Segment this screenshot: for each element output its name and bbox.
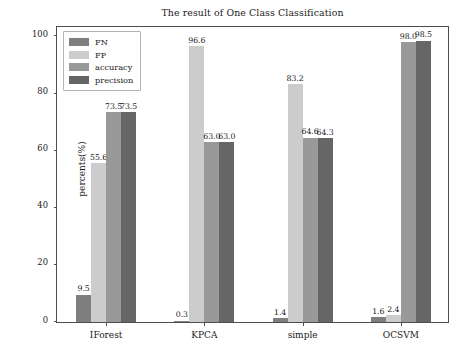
legend-swatch-icon [69,38,89,46]
y-tick-mark [54,93,58,94]
y-tick-label: 60 [37,143,48,153]
legend-item-label: precision [95,75,133,85]
y-tick-label: 0 [43,315,48,325]
legend-item-fn[interactable]: FN [69,36,133,49]
bar-fn-kpca: 0.3 [174,321,189,322]
chart-legend: FNFPaccuracyprecision [63,31,141,91]
y-tick: 80 [1,93,57,94]
x-tick-mark [204,322,205,326]
x-tick-mark [106,322,107,326]
bar-precision-kpca: 63.0 [219,142,234,322]
bar-precision-simple: 64.3 [318,138,333,322]
y-tick-label: 100 [32,29,48,39]
y-axis-label: percents(%) [77,109,87,229]
legend-item-precision[interactable]: precision [69,74,133,87]
bar-precision-iforest: 73.5 [121,112,136,322]
y-tick-mark [54,207,58,208]
bar-fp-iforest: 55.6 [91,163,106,322]
y-tick: 20 [1,264,57,265]
x-tick-label: OCSVM [351,330,451,340]
y-tick-mark [54,150,58,151]
y-tick-mark [54,264,58,265]
legend-item-accuracy[interactable]: accuracy [69,61,133,74]
bar-precision-ocsvm: 98.5 [416,41,431,322]
bar-value-label: 98.5 [415,30,432,39]
chart-title: The result of One Class Classification [56,7,449,18]
bar-value-label: 55.6 [90,153,107,162]
legend-item-label: FP [95,50,106,60]
bar-value-label: 0.3 [176,310,188,319]
bar-value-label: 63.0 [218,132,235,141]
legend-item-label: FN [95,37,108,47]
y-tick-mark [54,35,58,36]
bar-value-label: 96.6 [188,36,205,45]
bar-fp-kpca: 96.6 [189,46,204,322]
bar-value-label: 2.4 [387,305,399,314]
y-tick-label: 40 [37,200,48,210]
bar-fn-simple: 1.4 [273,318,288,322]
legend-item-fp[interactable]: FP [69,49,133,62]
legend-swatch-icon [69,51,89,59]
y-tick: 0 [1,321,57,322]
bar-value-label: 73.5 [120,102,137,111]
x-tick-mark [401,322,402,326]
x-tick-mark [303,322,304,326]
bar-fp-simple: 83.2 [288,84,303,322]
y-tick-mark [54,321,58,322]
x-tick-label: IForest [56,330,156,340]
bar-value-label: 64.3 [316,128,333,137]
legend-swatch-icon [69,76,89,84]
y-tick: 100 [1,35,57,36]
y-tick: 40 [1,207,57,208]
plot-area: percents(%) 020406080100 IForestKPCAsimp… [56,26,449,323]
legend-swatch-icon [69,63,89,71]
bar-accuracy-simple: 64.6 [303,138,318,322]
legend-item-label: accuracy [95,62,132,72]
chart-figure: The result of One Class Classification p… [0,0,468,357]
bar-value-label: 1.4 [274,308,286,317]
bar-fn-iforest: 9.5 [76,295,91,322]
bar-accuracy-iforest: 73.5 [106,112,121,322]
bar-fp-ocsvm: 2.4 [386,315,401,322]
y-tick: 60 [1,150,57,151]
y-tick-label: 20 [37,257,48,267]
bar-fn-ocsvm: 1.6 [371,317,386,322]
x-tick-label: KPCA [154,330,254,340]
bar-value-label: 9.5 [77,284,89,293]
x-tick-label: simple [253,330,353,340]
bar-value-label: 83.2 [286,74,303,83]
bar-value-label: 1.6 [372,307,384,316]
bar-accuracy-kpca: 63.0 [204,142,219,322]
bar-accuracy-ocsvm: 98.0 [401,42,416,322]
y-tick-label: 80 [37,86,48,96]
